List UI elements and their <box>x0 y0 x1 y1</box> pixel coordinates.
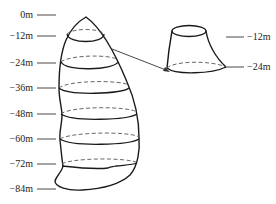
slice-24-front <box>61 62 118 69</box>
frustum-top <box>172 26 206 37</box>
depth-label-72: −72m <box>10 158 34 169</box>
slice-label-bottom: −24m <box>247 61 271 72</box>
frustum-bottom-back <box>167 62 226 68</box>
frustum-bottom-front <box>167 67 226 73</box>
main-body-outline <box>55 17 139 190</box>
slice-12-front <box>67 34 104 42</box>
depth-label-48: −48m <box>10 108 34 119</box>
slice-scale: −12m −24m <box>226 31 271 72</box>
slice-72-front <box>62 163 137 168</box>
depth-label-60: −60m <box>10 133 34 144</box>
depth-scale: 0m −12m −24m −36m −48m −60m −72m −84m <box>10 9 56 194</box>
slice-72-back <box>62 159 138 164</box>
frustum-right-side <box>206 31 226 67</box>
slice-60-front <box>60 139 139 144</box>
frustum-left-side <box>167 31 172 68</box>
depth-label-12: −12m <box>10 30 34 41</box>
depth-label-36: −36m <box>10 82 34 93</box>
slice-36-front <box>59 88 129 93</box>
slice-48-back <box>61 108 137 114</box>
slice-label-top: −12m <box>247 31 271 42</box>
extracted-slice <box>167 26 226 73</box>
depth-slice-diagram: 0m −12m −24m −36m −48m −60m −72m −84m <box>0 0 276 204</box>
slice-48-front <box>61 114 137 119</box>
depth-label-24: −24m <box>10 57 34 68</box>
slice-36-back <box>59 82 129 88</box>
depth-label-84: −84m <box>10 183 34 194</box>
main-body <box>55 17 139 190</box>
slice-60-back <box>60 133 139 139</box>
slice-24-back <box>61 56 118 62</box>
depth-label-0: 0m <box>20 9 33 20</box>
